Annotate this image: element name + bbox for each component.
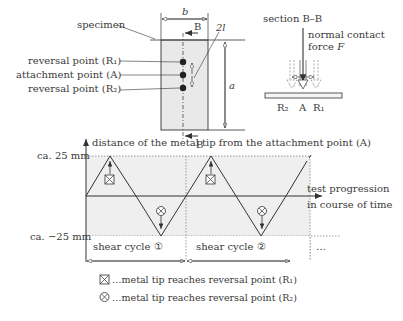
y-max-label: ca. 25 mm: [37, 150, 90, 161]
legend-text-R2: …metal tip reaches reversal point (R₂): [112, 292, 297, 303]
section-title: section B–B: [263, 13, 322, 24]
dot-R1: [180, 59, 186, 65]
legend: …metal tip reaches reversal point (R₁) ……: [100, 274, 297, 303]
section-label-A: A: [298, 102, 307, 113]
specimen-rect: [161, 40, 208, 130]
section-strip: [265, 93, 342, 98]
legend-text-R1: …metal tip reaches reversal point (R₁): [112, 274, 297, 285]
label-R2: reversal point (R₂): [28, 83, 121, 94]
y-axis-label: distance of the metal tip from the attac…: [92, 137, 371, 148]
dot-R2: [180, 85, 186, 91]
label-A: attachment point (A): [16, 69, 121, 80]
stroke-length-label: 2l: [215, 22, 226, 33]
diagram-canvas: b B B 2l a specimen reversal point (R₁) …: [0, 0, 403, 321]
legend-boxed-x-icon: [100, 275, 109, 284]
svg-text:force F: force F: [308, 41, 345, 52]
x-axis-label-2: in course of time: [307, 199, 392, 210]
dot-A: [180, 72, 186, 78]
dim-a-label: a: [229, 80, 235, 91]
section-view: section B–B normal contact force F R₂ A …: [263, 13, 385, 113]
y-min-label: ca. −25 mm: [30, 231, 92, 242]
specimen-label: specimen: [77, 19, 126, 30]
label-R1: reversal point (R₁): [28, 55, 121, 66]
x-axis-label-1: test progression: [307, 183, 390, 194]
displacement-chart: distance of the metal tip from the attac…: [30, 137, 392, 262]
section-marker-top: B: [194, 21, 201, 32]
dim-b-label: b: [182, 6, 188, 17]
force-label: normal contact: [308, 29, 385, 40]
cycle-2-label: shear cycle ②: [196, 241, 266, 252]
force-label-2: force: [308, 41, 334, 52]
specimen-view: b B B 2l a specimen reversal point (R₁) …: [16, 6, 245, 150]
section-label-R1: R₁: [313, 102, 325, 113]
force-symbol: F: [336, 41, 345, 52]
continuation-ellipsis: …: [316, 241, 326, 252]
cycle-1-label: shear cycle ①: [93, 241, 163, 252]
legend-circled-x-icon: [100, 293, 109, 302]
section-label-R2: R₂: [277, 102, 289, 113]
